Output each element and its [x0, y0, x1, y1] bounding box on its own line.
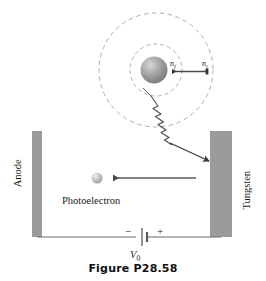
anode-plate	[32, 131, 42, 237]
anode-label: Anode	[13, 143, 24, 203]
n-initial-label: ni	[202, 60, 208, 70]
n-final-subscript: f	[174, 64, 176, 70]
n-initial-subscript: i	[206, 64, 208, 70]
photon-origin-lead	[143, 88, 152, 97]
figure-container: Anode Tungsten Photoelectron − + V0 nf n…	[0, 0, 266, 281]
voltage-label: V0	[130, 250, 140, 263]
photon-arrow-tail	[170, 143, 209, 161]
nucleus-sphere	[141, 57, 168, 84]
n-final-label: nf	[170, 60, 176, 70]
figure-caption: Figure P28.58	[0, 262, 266, 275]
tungsten-plate	[210, 131, 232, 237]
battery-negative-sign: −	[125, 226, 131, 237]
physics-diagram-canvas	[0, 0, 266, 281]
tungsten-label: Tungsten	[242, 153, 253, 227]
photoelectron-sphere	[92, 173, 103, 184]
photon-wave	[151, 96, 172, 145]
photoelectron-label: Photoelectron	[62, 196, 120, 207]
battery-positive-sign: +	[157, 226, 163, 237]
